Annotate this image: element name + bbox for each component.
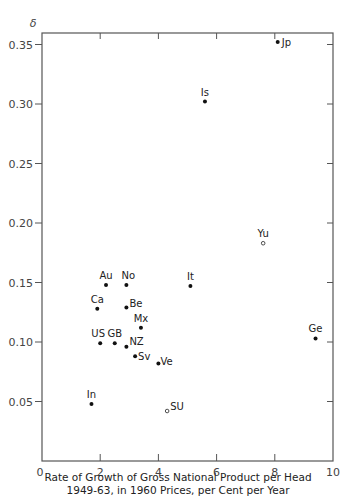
data-point-jp (276, 40, 280, 44)
data-label-yu: Yu (257, 228, 269, 239)
data-label-ca: Ca (91, 294, 104, 305)
data-label-gb: GB (107, 328, 122, 339)
data-point-yu (261, 241, 265, 245)
data-label-jp: Jp (281, 37, 291, 48)
data-label-us: US (91, 328, 105, 339)
x-axis-label-line-1: Rate of Growth of Gross National Product… (0, 471, 356, 484)
data-point-au (104, 283, 108, 287)
data-point-in (89, 402, 93, 406)
y-tick-label: 0.15 (9, 277, 34, 290)
data-label-sv: Sv (138, 351, 150, 362)
data-point-it (188, 284, 192, 288)
data-label-ge: Ge (309, 323, 323, 334)
data-point-sv (133, 354, 137, 358)
data-point-is (203, 100, 207, 104)
data-label-su: SU (170, 401, 184, 412)
data-label-nz: NZ (129, 336, 143, 347)
data-point-no (124, 283, 128, 287)
data-point-su (165, 409, 169, 413)
y-tick-label: 0.25 (9, 158, 34, 171)
y-tick-label: 0.30 (9, 98, 34, 111)
data-label-ve: Ve (160, 356, 172, 367)
y-tick-label: 0.10 (9, 336, 34, 349)
data-label-au: Au (99, 270, 112, 281)
y-tick-label: 0.05 (9, 396, 34, 409)
data-label-be: Be (129, 298, 142, 309)
data-point-gb (113, 341, 117, 345)
data-point-ge (314, 336, 318, 340)
data-label-mx: Mx (134, 313, 149, 324)
data-label-in: In (87, 389, 96, 400)
data-point-be (124, 305, 128, 309)
y-tick-label: 0.35 (9, 39, 34, 52)
data-label-is: Is (201, 87, 209, 98)
data-label-it: It (187, 271, 194, 282)
scatter-plot: 02468100.050.100.150.200.250.300.35δJpIs… (0, 0, 356, 504)
data-point-nz (124, 345, 128, 349)
y-axis-label: δ (30, 17, 37, 30)
y-tick-label: 0.20 (9, 217, 34, 230)
data-label-no: No (122, 270, 136, 281)
plot-frame (42, 33, 333, 461)
data-point-ca (95, 307, 99, 311)
data-point-mx (139, 326, 143, 330)
x-axis-label-line-2: 1949-63, in 1960 Prices, per Cent per Ye… (0, 484, 356, 497)
data-point-us (98, 341, 102, 345)
